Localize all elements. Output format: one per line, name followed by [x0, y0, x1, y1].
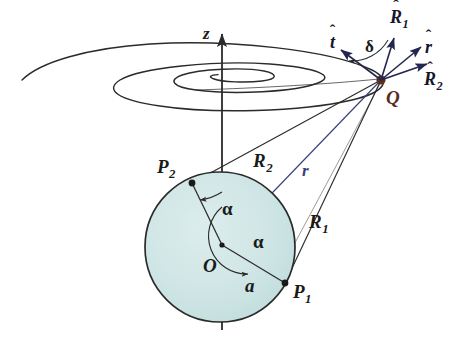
- marker-o: [219, 242, 224, 247]
- distance-label-r1: R1: [309, 212, 329, 236]
- ray-p2-q: [192, 80, 381, 183]
- r-hat-glyph: ˆr: [425, 38, 432, 56]
- distance-label-r2: R2: [253, 151, 273, 175]
- marker-p2: [189, 180, 196, 187]
- distance-label-a: a: [245, 276, 255, 295]
- physics-diagram-figure: z O P1 P2 Q R2 R1 r a α α δ ˆt ˆR 1: [0, 0, 470, 343]
- r2-hat-glyph: ˆR: [424, 70, 436, 88]
- marker-p1: [282, 280, 289, 287]
- r1-hat-glyph: ˆR: [390, 8, 402, 26]
- point-label-p1: P1: [293, 282, 312, 306]
- ray-p1-q: [285, 80, 381, 283]
- label-unit-vector-t-hat: ˆt: [330, 33, 335, 51]
- point-label-q: Q: [386, 88, 400, 107]
- arrow-r-hat: [381, 47, 421, 80]
- diagram-canvas: [0, 0, 470, 343]
- label-unit-vector-r-hat: ˆr: [425, 38, 432, 56]
- point-label-o: O: [203, 256, 217, 275]
- angle-label-alpha-lower: α: [253, 232, 264, 251]
- point-label-p2: P2: [157, 157, 176, 181]
- angle-label-delta: δ: [365, 38, 374, 55]
- distance-label-r: r: [302, 162, 309, 179]
- unit-vector-arrows: [341, 38, 427, 80]
- angle-label-alpha-upper: α: [222, 199, 233, 218]
- axis-label-z: z: [203, 25, 210, 42]
- arrow-r2-hat: [381, 64, 427, 80]
- sphere: [145, 172, 295, 322]
- t-hat-glyph: ˆt: [330, 33, 335, 51]
- label-unit-vector-r2-hat: ˆR 2: [424, 70, 443, 92]
- spiral-loop: [22, 43, 383, 111]
- label-unit-vector-r1-hat: ˆR 1: [390, 8, 409, 30]
